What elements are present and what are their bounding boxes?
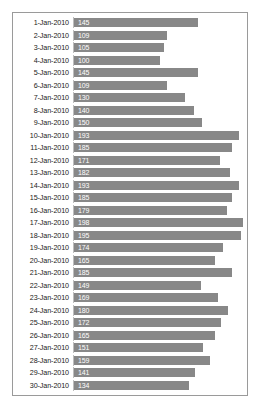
category-label: 21-Jan-2010 — [13, 268, 73, 277]
category-label: 1-Jan-2010 — [13, 18, 73, 27]
bar-track: 105 — [73, 42, 245, 53]
bar-value-label: 134 — [78, 381, 89, 390]
bar-row: 16-Jan-2010179 — [13, 205, 245, 216]
bar — [74, 143, 232, 152]
bar-value-label: 185 — [78, 143, 89, 152]
bar-row: 28-Jan-2010159 — [13, 355, 245, 366]
bar — [74, 381, 189, 390]
bar-value-label: 165 — [78, 256, 89, 265]
bar — [74, 206, 227, 215]
bar-track: 130 — [73, 92, 245, 103]
bar-value-label: 179 — [78, 206, 89, 215]
bar-value-label: 198 — [78, 218, 89, 227]
bar-value-label: 109 — [78, 81, 89, 90]
bar-row: 8-Jan-2010140 — [13, 105, 245, 116]
bar — [74, 343, 203, 352]
bar-track: 179 — [73, 205, 245, 216]
bar — [74, 156, 220, 165]
bar-track: 134 — [73, 380, 245, 391]
bar-track: 140 — [73, 105, 245, 116]
bar-value-label: 109 — [78, 31, 89, 40]
bar — [74, 368, 195, 377]
bar-row: 23-Jan-2010169 — [13, 292, 245, 303]
bar-track: 195 — [73, 230, 245, 241]
bar-value-label: 193 — [78, 131, 89, 140]
bar — [74, 306, 228, 315]
bar-track: 100 — [73, 55, 245, 66]
bar — [74, 268, 232, 277]
bar-row: 18-Jan-2010195 — [13, 230, 245, 241]
bar-value-label: 130 — [78, 93, 89, 102]
bar-value-label: 185 — [78, 193, 89, 202]
bar-track: 109 — [73, 30, 245, 41]
category-label: 24-Jan-2010 — [13, 306, 73, 315]
category-label: 11-Jan-2010 — [13, 143, 73, 152]
bar-track: 159 — [73, 355, 245, 366]
category-label: 15-Jan-2010 — [13, 193, 73, 202]
bar-track: 145 — [73, 67, 245, 78]
bar-track: 145 — [73, 17, 245, 28]
bar-row: 13-Jan-2010182 — [13, 167, 245, 178]
bar-track: 193 — [73, 180, 245, 191]
bar-row: 29-Jan-2010141 — [13, 367, 245, 378]
bar-track: 165 — [73, 255, 245, 266]
bar — [74, 281, 201, 290]
category-label: 8-Jan-2010 — [13, 106, 73, 115]
bar — [74, 68, 198, 77]
category-label: 27-Jan-2010 — [13, 343, 73, 352]
bar-row: 12-Jan-2010171 — [13, 155, 245, 166]
category-label: 16-Jan-2010 — [13, 206, 73, 215]
bar-row: 20-Jan-2010165 — [13, 255, 245, 266]
bar-value-label: 165 — [78, 331, 89, 340]
bar-value-label: 140 — [78, 106, 89, 115]
bar-row: 30-Jan-2010134 — [13, 380, 245, 391]
bar-row: 6-Jan-2010109 — [13, 80, 245, 91]
category-label: 18-Jan-2010 — [13, 231, 73, 240]
bar-value-label: 145 — [78, 68, 89, 77]
category-label: 4-Jan-2010 — [13, 56, 73, 65]
category-label: 25-Jan-2010 — [13, 318, 73, 327]
bar — [74, 231, 241, 240]
category-label: 6-Jan-2010 — [13, 81, 73, 90]
category-label: 26-Jan-2010 — [13, 331, 73, 340]
category-label: 5-Jan-2010 — [13, 68, 73, 77]
bar-row: 5-Jan-2010145 — [13, 67, 245, 78]
category-label: 10-Jan-2010 — [13, 131, 73, 140]
bar — [74, 331, 215, 340]
bar-row: 24-Jan-2010180 — [13, 305, 245, 316]
bar-row: 3-Jan-2010105 — [13, 42, 245, 53]
bar-row: 11-Jan-2010185 — [13, 142, 245, 153]
bar-track: 151 — [73, 342, 245, 353]
category-label: 3-Jan-2010 — [13, 43, 73, 52]
bar-row: 21-Jan-2010185 — [13, 267, 245, 278]
bar-track: 198 — [73, 217, 245, 228]
bar — [74, 118, 202, 127]
bar-value-label: 174 — [78, 243, 89, 252]
bar-track: 182 — [73, 167, 245, 178]
category-label: 23-Jan-2010 — [13, 293, 73, 302]
bar-value-label: 193 — [78, 181, 89, 190]
bar-track: 141 — [73, 367, 245, 378]
bar-value-label: 100 — [78, 56, 89, 65]
bar-track: 193 — [73, 130, 245, 141]
bar-track: 109 — [73, 80, 245, 91]
bar-row: 4-Jan-2010100 — [13, 55, 245, 66]
bar-row: 19-Jan-2010174 — [13, 242, 245, 253]
category-label: 22-Jan-2010 — [13, 281, 73, 290]
bar — [74, 293, 218, 302]
bar-row: 17-Jan-2010198 — [13, 217, 245, 228]
category-label: 30-Jan-2010 — [13, 381, 73, 390]
bar-value-label: 182 — [78, 168, 89, 177]
bar-track: 185 — [73, 192, 245, 203]
bar-row: 27-Jan-2010151 — [13, 342, 245, 353]
bar-value-label: 185 — [78, 268, 89, 277]
bar-row: 25-Jan-2010172 — [13, 317, 245, 328]
bar-value-label: 141 — [78, 368, 89, 377]
bar-track: 165 — [73, 330, 245, 341]
bar — [74, 131, 239, 140]
bar-track: 171 — [73, 155, 245, 166]
bar-value-label: 171 — [78, 156, 89, 165]
category-label: 7-Jan-2010 — [13, 93, 73, 102]
bar-row: 9-Jan-2010150 — [13, 117, 245, 128]
bar-row: 1-Jan-2010145 — [13, 17, 245, 28]
